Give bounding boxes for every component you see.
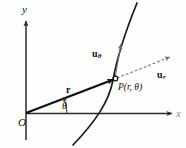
u-theta-vector-arrow bbox=[115, 44, 121, 78]
u-r-vector-label: ur bbox=[157, 70, 166, 81]
position-vector-label: r bbox=[66, 85, 70, 95]
u-theta-subscript: θ bbox=[98, 52, 102, 60]
point-p-marker bbox=[113, 76, 118, 81]
y-axis-label: y bbox=[22, 4, 27, 15]
point-p-label: P(r, θ) bbox=[118, 83, 142, 93]
u-r-base: u bbox=[157, 69, 163, 80]
x-axis-label: x bbox=[176, 108, 181, 119]
polar-coordinates-diagram: y x O θ r uθ ur P(r, θ) bbox=[0, 0, 186, 148]
u-theta-vector-label: uθ bbox=[92, 49, 101, 60]
u-theta-base: u bbox=[92, 48, 98, 59]
origin-label: O bbox=[18, 117, 26, 128]
u-r-subscript: r bbox=[163, 73, 166, 81]
theta-angle-label: θ bbox=[62, 101, 67, 111]
